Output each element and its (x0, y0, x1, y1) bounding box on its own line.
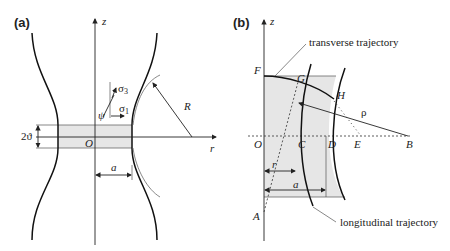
specimen-right-profile (132, 33, 157, 240)
sigma3-arrow (112, 88, 116, 98)
diagram-canvas: (a) z r O R a 2ϑ σ3 σ1 (0, 0, 450, 251)
z-axis-b-label: z (269, 15, 275, 27)
sigma1-label: σ1 (119, 102, 129, 116)
radius-label: R (183, 100, 191, 112)
z-axis-label: z (101, 15, 107, 27)
panel-a: (a) z r O R a 2ϑ σ3 σ1 (14, 15, 216, 245)
point-d: D (327, 138, 336, 150)
sigma3-label: σ3 (118, 82, 128, 96)
band-height-label: 2ϑ (21, 130, 33, 142)
psi-label: ψ (98, 109, 105, 121)
specimen-left-profile (32, 33, 58, 240)
longitudinal-trajectory-label: longitudinal trajectory (340, 216, 439, 228)
longitudinal-leader (313, 207, 336, 222)
panel-a-label: (a) (14, 15, 30, 30)
normal-he-dotted (334, 101, 361, 136)
origin-label: O (85, 137, 93, 149)
dimension-a-b-label: a (293, 178, 299, 190)
point-a: A (252, 210, 260, 222)
point-o: O (254, 138, 262, 150)
dimension-a-label: a (111, 161, 117, 173)
dimension-r-label: r (272, 158, 277, 170)
point-f: F (253, 64, 261, 76)
panel-b-label: (b) (233, 15, 250, 30)
panel-b: (b) z ρ F G H O C D E B A r (233, 15, 439, 241)
point-g: G (297, 72, 305, 84)
point-c: C (298, 138, 306, 150)
point-b: B (406, 138, 413, 150)
point-e: E (353, 138, 361, 150)
r-axis-label: r (210, 142, 215, 154)
rho-label: ρ (361, 106, 367, 118)
transverse-trajectory-label: transverse trajectory (309, 36, 399, 48)
figure: (a) z r O R a 2ϑ σ3 σ1 (0, 0, 450, 251)
point-h: H (336, 89, 346, 101)
